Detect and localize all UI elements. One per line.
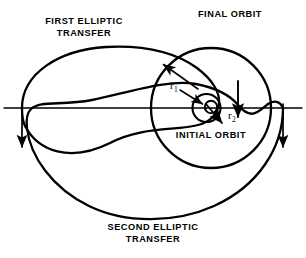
label-second-elliptic-transfer: SECOND ELLIPTIC TRANSFER <box>58 222 248 245</box>
label-initial-orbit: INITIAL ORBIT <box>156 130 266 142</box>
label-r2: r2 <box>228 109 235 121</box>
label-first-elliptic-transfer: FIRST ELLIPTIC TRANSFER <box>24 16 144 39</box>
label-r1-subscript: 1 <box>174 85 178 94</box>
second-elliptic-transfer-curve <box>27 83 283 219</box>
label-r2-subscript: 2 <box>232 115 236 124</box>
orbit-transfer-figure: FIRST ELLIPTIC TRANSFER FINAL ORBIT INIT… <box>0 0 306 258</box>
r1-arrow <box>164 65 199 90</box>
initial-orbit-curve <box>205 101 217 113</box>
label-final-orbit: FINAL ORBIT <box>176 9 284 21</box>
label-r1: r1 <box>170 79 177 91</box>
